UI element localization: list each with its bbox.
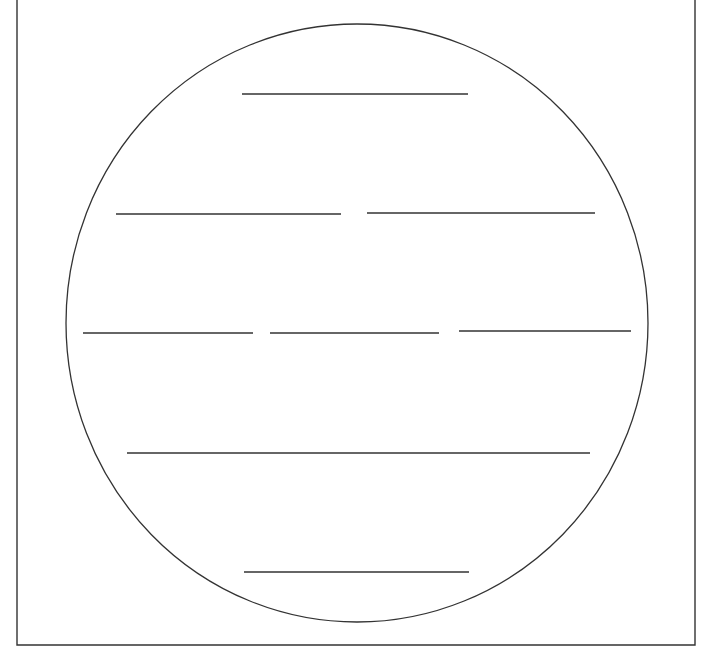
worksheet-diagram bbox=[0, 0, 704, 663]
write-in-lines bbox=[83, 94, 631, 572]
circle-outline bbox=[66, 24, 648, 622]
frame-border bbox=[17, 0, 695, 645]
